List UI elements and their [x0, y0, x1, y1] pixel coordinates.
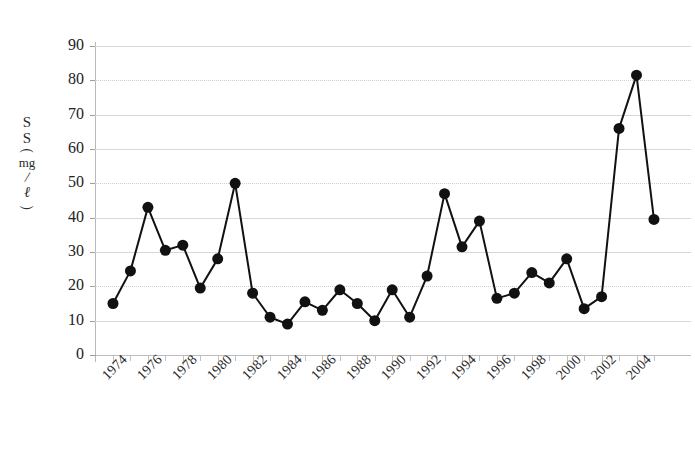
- x-axis-tick-label: 2002: [588, 352, 620, 384]
- x-axis-tick-label: 1984: [274, 352, 306, 384]
- x-axis-tick-label: 2000: [553, 352, 585, 384]
- x-axis-tick-label: 1978: [169, 352, 201, 384]
- x-axis-tick-label: 1996: [483, 352, 515, 384]
- x-axis-tick-label: 1982: [239, 352, 271, 384]
- x-axis-tick-label: 1992: [413, 352, 445, 384]
- x-axis-tick-label: 1998: [518, 352, 550, 384]
- x-axis-tick-label: 1990: [378, 352, 410, 384]
- x-axis-tick-label: 1986: [308, 352, 340, 384]
- x-axis-tick-label: 1980: [204, 352, 236, 384]
- x-axis-tick-label: 1994: [448, 352, 480, 384]
- x-axis-tick-label: 2004: [623, 352, 655, 384]
- x-axis-tick-label: 1974: [99, 352, 131, 384]
- x-axis-labels: 1974197619781980198219841986198819901992…: [0, 0, 695, 452]
- x-axis-tick-label: 1976: [134, 352, 166, 384]
- x-axis-tick-label: 1988: [343, 352, 375, 384]
- chart-container: S S ( mg / ℓ ) 0102030405060708090 19741…: [0, 0, 695, 452]
